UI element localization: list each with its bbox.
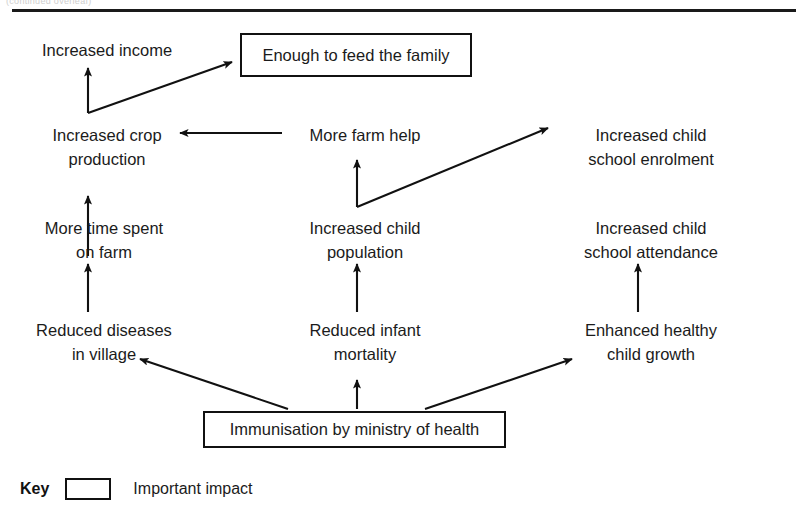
node-increased-crop-production: Increased crop production: [22, 123, 192, 171]
node-increased-child-school-attendance: Increased child school attendance: [556, 216, 746, 264]
diagram-page: (continued overleaf): [0, 0, 810, 515]
node-more-farm-help: More farm help: [285, 123, 445, 147]
edge-immunisation-to-growth: [425, 359, 572, 409]
node-increased-child-school-enrolment: Increased child school enrolment: [556, 123, 746, 171]
key: Key Important impact: [20, 478, 253, 500]
node-enough-to-feed-the-family: Enough to feed the family: [240, 33, 472, 77]
edge-crop-to-feed-family: [88, 62, 232, 113]
key-swatch-box-outline: [65, 478, 111, 500]
node-reduced-diseases-in-village: Reduced diseases in village: [12, 318, 196, 366]
node-more-time-spent-on-farm: More time spent on farm: [16, 216, 192, 264]
node-increased-child-population: Increased child population: [285, 216, 445, 264]
node-increased-income: Increased income: [22, 38, 192, 62]
edge-immunisation-to-diseases: [140, 359, 288, 409]
node-immunisation-by-ministry-of-health: Immunisation by ministry of health: [203, 411, 506, 448]
key-entry-label: Important impact: [133, 480, 252, 498]
node-enhanced-healthy-child-growth: Enhanced healthy child growth: [556, 318, 746, 366]
key-title: Key: [20, 480, 49, 498]
node-reduced-infant-mortality: Reduced infant mortality: [285, 318, 445, 366]
